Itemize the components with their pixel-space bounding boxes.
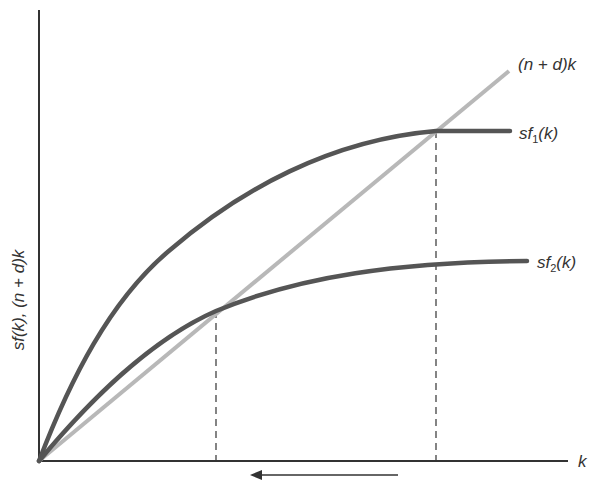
sf1-curve [39, 131, 510, 461]
y-axis-label: sf(k), (n + d)k [9, 248, 28, 350]
sf2-label: sf2(k) [537, 253, 576, 274]
arrow-left-icon [250, 470, 262, 480]
solow-diagram: (n + d)k sf1(k) sf2(k) k sf(k), (n + d)k [0, 0, 598, 491]
line-label: (n + d)k [518, 55, 578, 74]
sf1-label: sf1(k) [519, 124, 558, 145]
x-axis-label: k [578, 452, 588, 471]
sf2-curve [39, 261, 527, 461]
